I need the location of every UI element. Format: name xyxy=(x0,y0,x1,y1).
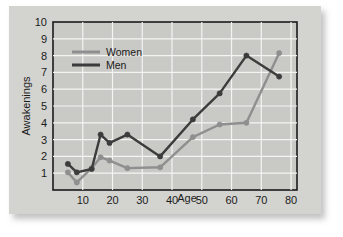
y-tick-label: 9 xyxy=(41,33,47,45)
y-tick-label: 6 xyxy=(41,83,47,95)
y-tick-label: 1 xyxy=(41,167,47,179)
x-tick-label: 80 xyxy=(285,194,297,206)
x-tick-label: 30 xyxy=(136,194,148,206)
y-tick-label: 8 xyxy=(41,50,47,62)
y-tick-label: 2 xyxy=(41,150,47,162)
y-axis-title: Awakenings xyxy=(20,76,32,136)
x-axis-title: Age xyxy=(177,192,197,204)
figure-card: 1020304050607080 12345678910 WomenMen Ag… xyxy=(9,6,321,214)
x-tick-label: 60 xyxy=(225,194,237,206)
y-tick-label: 3 xyxy=(41,134,47,146)
legend-label-men: Men xyxy=(106,59,127,71)
x-tick-label: 70 xyxy=(255,194,267,206)
x-tick-label: 20 xyxy=(106,194,118,206)
y-tick-label: 5 xyxy=(41,100,47,112)
y-tick-label: 4 xyxy=(41,117,47,129)
x-tick-label: 10 xyxy=(77,194,89,206)
y-tick-label: 7 xyxy=(41,66,47,78)
x-tick-label: 50 xyxy=(196,194,208,206)
y-tick-label: 10 xyxy=(35,16,47,28)
y-axis-ticks: 12345678910 xyxy=(35,16,47,179)
line-chart: 1020304050607080 12345678910 WomenMen Ag… xyxy=(9,6,321,214)
legend-label-women: Women xyxy=(106,46,142,58)
